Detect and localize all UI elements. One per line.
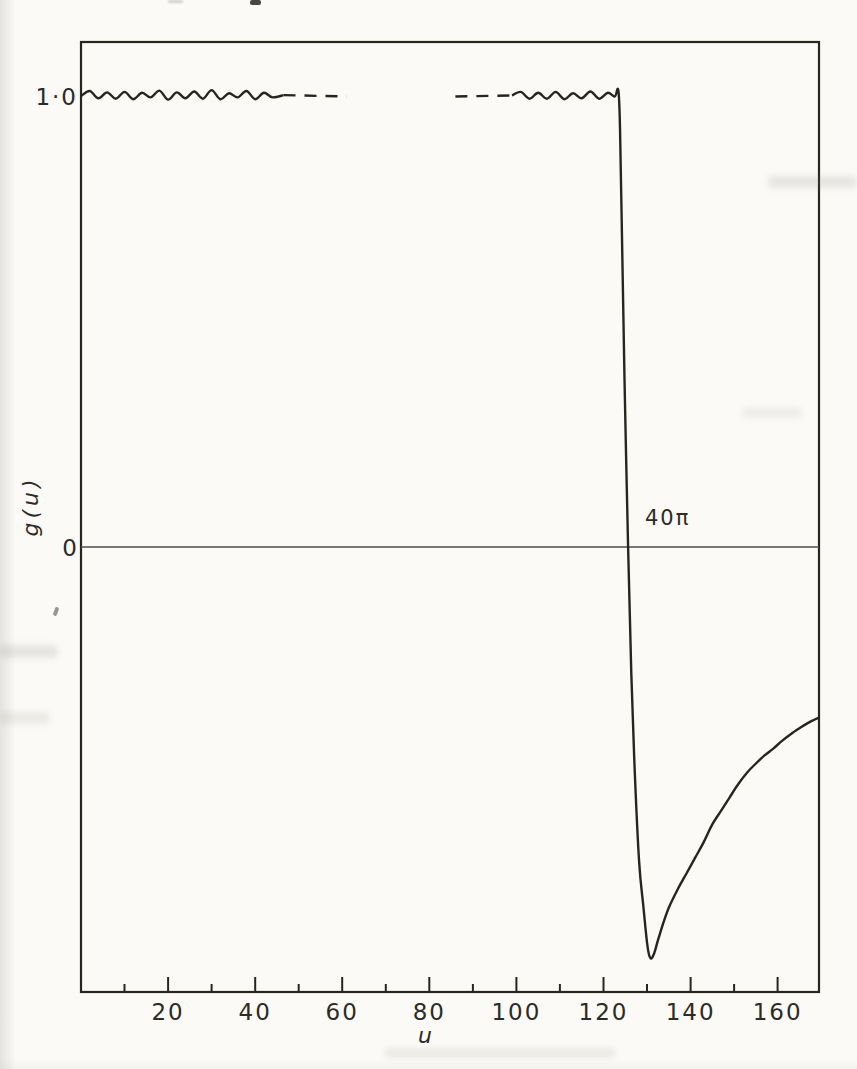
chart-svg: 20406080100120140160 1·0 0 g(u) u 40π xyxy=(0,0,857,1069)
curve-g-plateau-right-dashed xyxy=(455,96,512,97)
x-tick-label: 160 xyxy=(753,999,803,1025)
x-tick-label: 140 xyxy=(666,999,716,1025)
y-tick-label-one: 1·0 xyxy=(35,84,78,110)
x-tick-label: 100 xyxy=(491,999,541,1025)
curve-g-plateau-left-solid xyxy=(81,90,284,100)
curve-g-plateau-left-dashed xyxy=(284,95,347,96)
annotation-40pi: 40π xyxy=(645,506,690,530)
x-axis-tick-labels: 20406080100120140160 xyxy=(151,999,802,1025)
plot-frame xyxy=(81,42,819,992)
x-tick-label: 120 xyxy=(579,999,629,1025)
scanned-figure-page: 20406080100120140160 1·0 0 g(u) u 40π xyxy=(0,0,857,1069)
x-tick-label: 60 xyxy=(326,999,359,1025)
curve-group xyxy=(81,89,819,959)
x-axis-title: u xyxy=(418,1023,436,1048)
x-tick-label: 40 xyxy=(239,999,272,1025)
y-tick-label-zero: 0 xyxy=(62,535,79,561)
x-tick-label: 20 xyxy=(151,999,184,1025)
x-axis-ticks xyxy=(125,977,778,992)
x-tick-label: 80 xyxy=(413,999,446,1025)
y-axis-title: g(u) xyxy=(18,475,43,536)
